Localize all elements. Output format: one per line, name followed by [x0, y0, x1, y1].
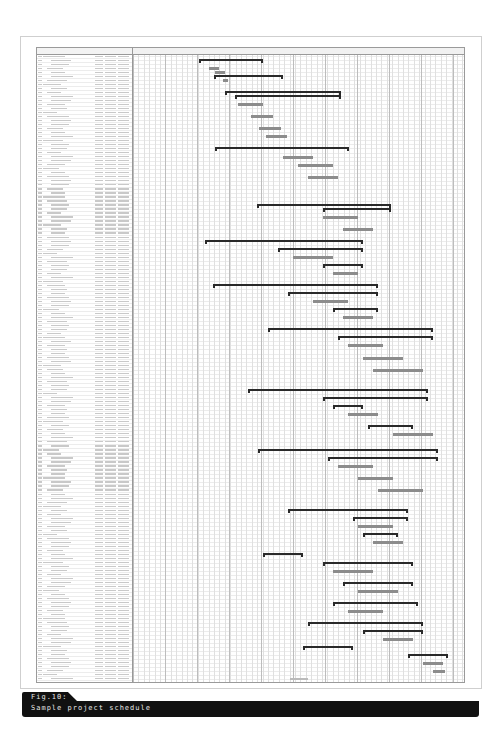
table-cell: [95, 329, 103, 330]
table-cell: [105, 333, 116, 334]
table-cell: [105, 441, 116, 442]
table-cell: [38, 241, 42, 242]
table-cell: [43, 674, 57, 675]
table-cell: [38, 385, 42, 386]
table-cell: [105, 638, 116, 639]
table-cell: [51, 485, 69, 486]
table-cell: [95, 112, 103, 113]
table-cell: [51, 518, 73, 519]
table-cell: [95, 417, 103, 418]
table-cell: [38, 321, 42, 322]
table-cell: [105, 289, 116, 290]
table-cell: [38, 662, 42, 663]
table-cell: [118, 261, 129, 262]
table-cell: [38, 510, 42, 511]
table-cell: [43, 337, 65, 338]
table-cell: [51, 277, 73, 278]
table-cell: [105, 224, 116, 225]
table-cell: [38, 164, 42, 165]
table-cell: [105, 421, 116, 422]
table-cell: [38, 277, 42, 278]
table-cell: [105, 461, 116, 462]
table-cell: [118, 674, 129, 675]
table-cell: [118, 554, 129, 555]
table-cell: [47, 610, 63, 611]
table-cell: [43, 224, 61, 225]
table-cell: [51, 650, 67, 651]
summary-bar: [268, 328, 433, 330]
table-cell: [51, 241, 71, 242]
table-cell: [47, 333, 61, 334]
table-cell: [95, 622, 103, 623]
table-cell: [118, 369, 129, 370]
table-cell: [38, 88, 42, 89]
table-cell: [95, 550, 103, 551]
table-cell: [105, 357, 116, 358]
table-cell: [38, 542, 42, 543]
table-cell: [38, 273, 42, 274]
table-cell: [51, 377, 73, 378]
table-cell: [38, 494, 42, 495]
table-cell: [95, 76, 103, 77]
table-cell: [38, 674, 42, 675]
table-cell: [118, 136, 129, 137]
table-cell: [51, 208, 67, 209]
table-cell: [51, 160, 71, 161]
table-cell: [51, 662, 71, 663]
table-cell: [38, 405, 42, 406]
table-cell: [43, 112, 57, 113]
summary-bar: [353, 517, 408, 519]
summary-bar: [408, 654, 448, 656]
table-cell: [95, 626, 103, 627]
table-cell: [105, 654, 116, 655]
table-cell: [47, 405, 65, 406]
table-cell: [38, 301, 42, 302]
table-cell: [118, 305, 129, 306]
table-cell: [95, 273, 103, 274]
table-cell: [118, 160, 129, 161]
table-cell: [47, 538, 69, 539]
table-cell: [118, 417, 129, 418]
table-cell: [95, 60, 103, 61]
table-cell: [38, 208, 42, 209]
table-cell: [118, 329, 129, 330]
table-cell: [51, 566, 69, 567]
summary-bar: [343, 582, 413, 584]
table-cell: [118, 570, 129, 571]
table-cell: [38, 72, 42, 73]
table-cell: [95, 586, 103, 587]
table-cell: [105, 457, 116, 458]
table-cell: [118, 429, 129, 430]
table-cell: [105, 481, 116, 482]
table-cell: [118, 618, 129, 619]
table-cell: [95, 168, 103, 169]
table-cell: [95, 594, 103, 595]
table-cell: [47, 381, 67, 382]
table-cell: [118, 578, 129, 579]
table-cell: [38, 369, 42, 370]
table-cell: [105, 132, 116, 133]
table-cell: [95, 630, 103, 631]
summary-bar: [258, 449, 438, 451]
table-cell: [95, 196, 103, 197]
task-bar: [423, 662, 443, 665]
table-cell: [38, 285, 42, 286]
table-cell: [118, 489, 129, 490]
table-row: [37, 681, 132, 683]
table-cell: [51, 220, 71, 221]
table-cell: [95, 353, 103, 354]
table-cell: [118, 397, 129, 398]
table-cell: [95, 518, 103, 519]
table-cell: [47, 188, 63, 189]
table-cell: [47, 526, 65, 527]
table-cell: [118, 341, 129, 342]
table-cell: [105, 473, 116, 474]
table-cell: [95, 449, 103, 450]
table-cell: [105, 285, 116, 286]
table-cell: [95, 293, 103, 294]
task-bar: [308, 176, 338, 179]
table-cell: [95, 526, 103, 527]
table-cell: [51, 341, 71, 342]
table-cell: [47, 465, 65, 466]
table-cell: [95, 650, 103, 651]
